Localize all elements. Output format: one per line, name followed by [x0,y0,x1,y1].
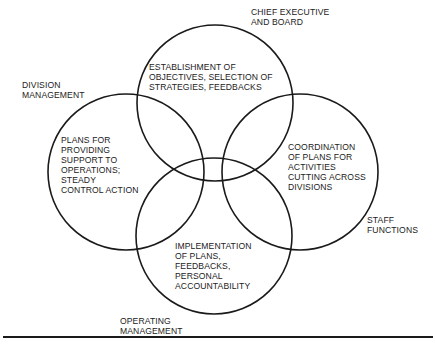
text-staff-functions: COORDINATION OF PLANS FOR ACTIVITIES CUT… [288,142,366,192]
bottom-rule [3,336,433,338]
text-division-management: PLANS FOR PROVIDING SUPPORT TO OPERATION… [61,135,138,195]
text-chief-executive: ESTABLISHMENT OF OBJECTIVES, SELECTION O… [149,62,273,92]
label-division-management: DIVISION MANAGEMENT [22,80,85,100]
text-operating-management: IMPLEMENTATION OF PLANS, FEEDBACKS, PERS… [175,241,252,291]
label-staff-functions: STAFF FUNCTIONS [367,215,418,235]
label-operating-management: OPERATING MANAGEMENT [120,316,183,336]
label-chief-executive: CHIEF EXECUTIVE AND BOARD [251,7,329,27]
